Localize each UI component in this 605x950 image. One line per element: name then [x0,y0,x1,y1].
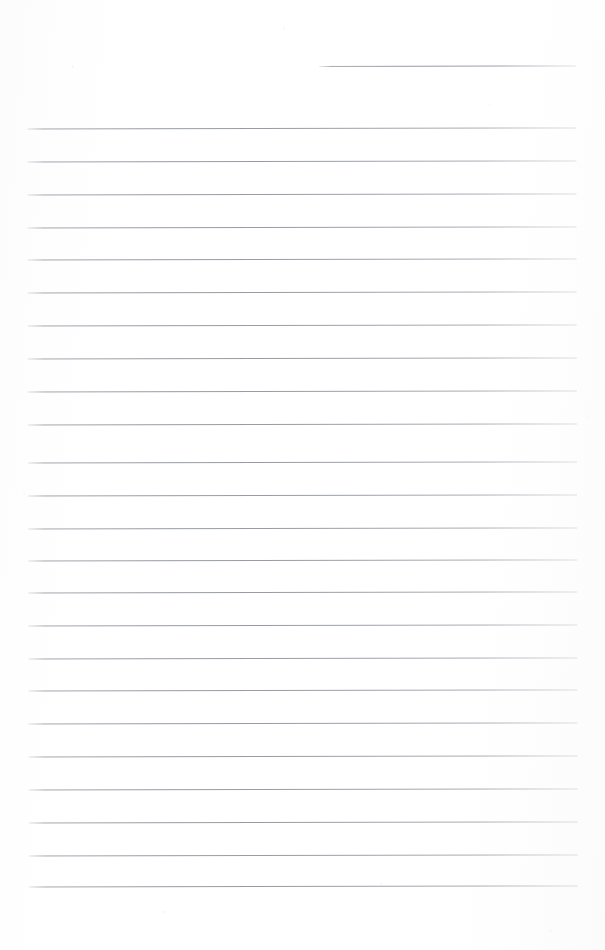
rule-line [28,494,577,496]
rule-line [28,624,577,626]
rule-line [28,559,577,561]
rule-line [28,423,577,425]
rule-line [27,160,576,162]
rule-line [29,854,578,856]
rule-line [28,689,577,691]
rule-line [29,885,578,887]
rule-line [28,591,577,593]
rule-line [28,357,577,359]
rule-line [28,258,577,260]
rule-line [28,291,577,293]
rule-line [29,821,578,823]
rule-line [28,527,577,529]
ruling-layer [0,0,605,950]
rule-line [27,226,576,228]
rule-line [28,324,577,326]
rule-line [29,722,578,724]
rule-line [28,657,577,659]
rule-line [29,755,578,757]
rule-line [27,193,576,195]
rule-line [27,127,576,129]
rule-line [29,788,578,790]
rule-line [28,390,577,392]
scanned-page [0,0,605,950]
rule-line [28,461,577,463]
header-rule-line [319,65,576,67]
